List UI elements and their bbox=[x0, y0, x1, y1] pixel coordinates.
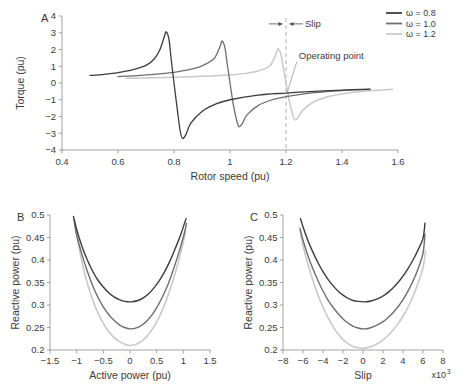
panel-b-ytick-label: 0.3 bbox=[31, 299, 44, 310]
panel-c-ylabel: Reactive power (pu) bbox=[242, 236, 254, 330]
legend-label: ω = 1.0 bbox=[406, 19, 436, 29]
panel-a-xtick-label: 1.2 bbox=[279, 156, 292, 167]
panel-a-ylabel: Torque (pu) bbox=[14, 56, 26, 110]
panel-a-ytick-label: −1 bbox=[45, 94, 56, 105]
panel-a-xtick-label: 1 bbox=[227, 156, 232, 167]
operating-point-leader bbox=[288, 62, 297, 92]
panel-c-ytick-label: 0.5 bbox=[264, 209, 277, 220]
panel-c-xtick-label: −6 bbox=[298, 355, 309, 366]
panel-b-axes bbox=[50, 215, 210, 350]
panel-c-curve bbox=[300, 229, 425, 329]
slip-annotation-label: Slip bbox=[305, 18, 321, 29]
panel-a-ytick-label: 4 bbox=[51, 10, 56, 21]
slip-annotation: Slip bbox=[269, 18, 321, 29]
panel-b: B0.50.450.40.350.30.250.2−1.5−1−0.500.51… bbox=[9, 209, 217, 381]
panel-b-ytick-label: 0.25 bbox=[26, 322, 45, 333]
panel-a-ytick-label: −2 bbox=[45, 111, 56, 122]
panel-b-xtick-label: −0.5 bbox=[94, 355, 113, 366]
panel-c-curve bbox=[301, 219, 426, 302]
panel-c-ytick-label: 0.2 bbox=[264, 344, 277, 355]
legend: ω = 0.8ω = 1.0ω = 1.2 bbox=[386, 8, 436, 39]
panel-c-ytick-label: 0.3 bbox=[264, 299, 277, 310]
panel-c-xtick-label: −2 bbox=[338, 355, 349, 366]
panel-c-multiplier-exponent: 3 bbox=[447, 368, 451, 375]
panel-c-xtick-label: 0 bbox=[360, 355, 365, 366]
panel-a-ytick-label: −4 bbox=[45, 144, 56, 155]
figure-canvas: A43210−1−2−3−40.40.60.811.21.41.6Rotor s… bbox=[0, 0, 466, 389]
panel-b-xtick-label: −1.5 bbox=[41, 355, 60, 366]
panel-b-xtick-label: 1 bbox=[181, 355, 186, 366]
panel-b-curve bbox=[74, 220, 187, 329]
operating-point-label: Operating point bbox=[299, 50, 364, 61]
panel-a-ytick-label: 1 bbox=[51, 61, 56, 72]
panel-c-letter: C bbox=[250, 211, 258, 223]
panel-b-ytick-label: 0.45 bbox=[26, 232, 45, 243]
panel-c-xtick-label: 8 bbox=[440, 355, 445, 366]
panel-a-ytick-label: 3 bbox=[51, 27, 56, 38]
panel-b-xtick-label: −1 bbox=[71, 355, 82, 366]
legend-label: ω = 1.2 bbox=[406, 29, 436, 39]
panel-c-xtick-label: 4 bbox=[400, 355, 405, 366]
panel-c-xlabel: Slip bbox=[354, 369, 372, 381]
panel-a-xlabel: Rotor speed (pu) bbox=[191, 170, 270, 182]
panel-b-ytick-label: 0.2 bbox=[31, 344, 44, 355]
panel-c-ytick-label: 0.45 bbox=[259, 232, 278, 243]
panel-b-letter: B bbox=[17, 211, 24, 223]
panel-c-ytick-label: 0.35 bbox=[259, 277, 278, 288]
panel-b-xtick-label: 0.5 bbox=[150, 355, 163, 366]
panel-a-xtick-label: 0.6 bbox=[111, 156, 124, 167]
figure-root: A43210−1−2−3−40.40.60.811.21.41.6Rotor s… bbox=[0, 0, 466, 389]
panel-b-ytick-label: 0.5 bbox=[31, 209, 44, 220]
panel-a-ytick-label: 0 bbox=[51, 77, 56, 88]
slip-arrow-right-head bbox=[290, 22, 294, 26]
panel-c-xtick-label: 6 bbox=[420, 355, 425, 366]
panel-c-xtick-label: 2 bbox=[380, 355, 385, 366]
slip-arrow-left-head bbox=[279, 22, 283, 26]
panel-b-ytick-label: 0.35 bbox=[26, 277, 45, 288]
panel-c: C0.50.450.40.350.30.250.2−8−6−4−202468Sl… bbox=[242, 209, 451, 381]
panel-a-letter: A bbox=[41, 12, 49, 24]
panel-a-ytick-label: −3 bbox=[45, 128, 56, 139]
panel-b-xlabel: Active power (pu) bbox=[89, 369, 171, 381]
panel-b-ytick-label: 0.4 bbox=[31, 254, 44, 265]
operating-point-annotation: Operating point bbox=[288, 50, 365, 92]
panel-b-ylabel: Reactive power (pu) bbox=[9, 236, 21, 330]
panel-a-ytick-label: 2 bbox=[51, 44, 56, 55]
panel-b-xtick-label: 0 bbox=[127, 355, 132, 366]
panel-c-xtick-label: −8 bbox=[278, 355, 289, 366]
legend-label: ω = 0.8 bbox=[406, 8, 436, 18]
panel-a-xtick-label: 0.4 bbox=[55, 156, 68, 167]
panel-a-xtick-label: 0.8 bbox=[167, 156, 180, 167]
panel-c-multiplier-base: x10 bbox=[431, 370, 446, 380]
panel-c-x-multiplier: x103 bbox=[431, 368, 451, 381]
panel-a-xtick-label: 1.4 bbox=[335, 156, 348, 167]
panel-b-xtick-label: 1.5 bbox=[203, 355, 216, 366]
panel-c-curve bbox=[300, 231, 426, 348]
panel-c-xtick-label: −4 bbox=[318, 355, 329, 366]
panel-a: A43210−1−2−3−40.40.60.811.21.41.6Rotor s… bbox=[14, 8, 436, 182]
panel-c-ytick-label: 0.4 bbox=[264, 254, 277, 265]
panel-b-curve bbox=[73, 216, 186, 302]
panel-a-xtick-label: 1.6 bbox=[391, 156, 404, 167]
panel-c-ytick-label: 0.25 bbox=[259, 322, 278, 333]
